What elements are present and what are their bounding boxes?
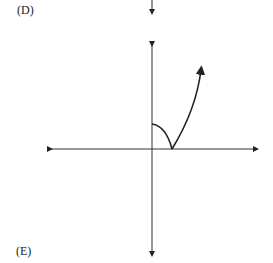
- graph-figure: [0, 0, 273, 263]
- curve-arc: [152, 124, 172, 149]
- curve-rising: [172, 70, 201, 149]
